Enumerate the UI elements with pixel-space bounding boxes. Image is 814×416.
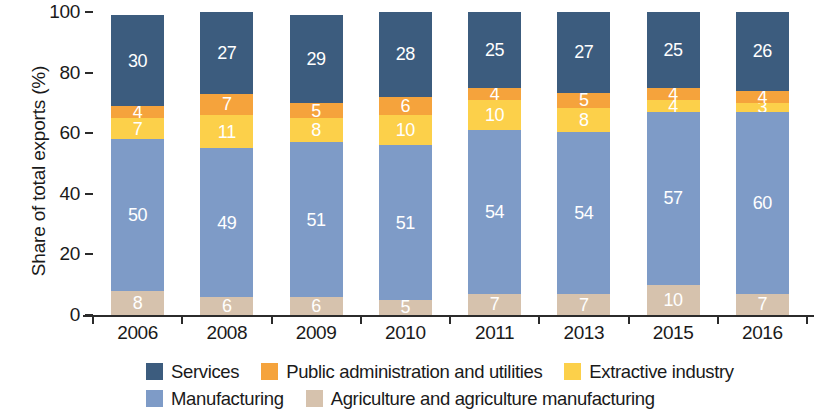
bar-segment-value: 5 bbox=[579, 93, 589, 108]
bar-segment-value: 11 bbox=[218, 123, 236, 141]
legend-label: Extractive industry bbox=[589, 361, 734, 383]
bar-segment: 6 bbox=[200, 297, 253, 315]
y-axis-tick-label: 60 bbox=[59, 122, 80, 144]
y-axis-tick-mark bbox=[85, 72, 93, 74]
bar-segment-value: 30 bbox=[128, 52, 147, 70]
legend-swatch-icon bbox=[564, 363, 581, 380]
bar-segment-value: 7 bbox=[758, 295, 768, 313]
legend-label: Agriculture and agriculture manufacturin… bbox=[331, 388, 655, 410]
bar-segment-value: 10 bbox=[485, 106, 504, 124]
bar-segment: 7 bbox=[468, 294, 521, 315]
legend-item[interactable]: Manufacturing bbox=[146, 388, 284, 410]
x-axis-label-2011: 2011 bbox=[450, 322, 539, 344]
legend-item[interactable]: Extractive industry bbox=[564, 361, 734, 383]
bar-segment: 27 bbox=[200, 12, 253, 94]
bar-segment: 54 bbox=[468, 130, 521, 294]
bar-2009: 6518529 bbox=[290, 12, 343, 315]
bar-segment: 26 bbox=[736, 12, 789, 91]
bar-segment: 5 bbox=[557, 93, 610, 108]
y-axis-tick-label: 80 bbox=[59, 62, 80, 84]
bar-2010: 55110628 bbox=[379, 12, 432, 315]
bar-segment-value: 5 bbox=[311, 103, 321, 118]
bar-segment-value: 4 bbox=[490, 88, 500, 100]
bar-segment-value: 51 bbox=[396, 214, 415, 232]
legend-item[interactable]: Public administration and utilities bbox=[261, 361, 542, 383]
y-axis-tick-mark bbox=[85, 132, 93, 134]
bar-segment: 4 bbox=[468, 88, 521, 100]
bar-segment-value: 4 bbox=[758, 91, 768, 103]
legend-swatch-icon bbox=[146, 363, 163, 380]
chart-legend: ServicesPublic administration and utilit… bbox=[0, 358, 814, 412]
bar-segment-value: 26 bbox=[753, 42, 772, 60]
bar-2006: 8507430 bbox=[111, 12, 164, 315]
bar-segment-value: 28 bbox=[396, 45, 415, 63]
bar-segment-value: 29 bbox=[306, 50, 325, 68]
legend-item[interactable]: Agriculture and agriculture manufacturin… bbox=[306, 388, 655, 410]
bar-segment-value: 57 bbox=[663, 189, 682, 207]
bar-segment: 10 bbox=[379, 115, 432, 145]
bar-segment: 6 bbox=[290, 297, 343, 315]
bar-segment-value: 4 bbox=[668, 88, 678, 100]
bar-segment: 49 bbox=[200, 148, 253, 296]
y-axis-tick-mark bbox=[85, 11, 93, 13]
bar-segment-value: 5 bbox=[401, 300, 411, 315]
y-axis-tick-label: 20 bbox=[59, 243, 80, 265]
legend-item[interactable]: Services bbox=[146, 361, 239, 383]
bar-segment: 50 bbox=[111, 139, 164, 291]
bar-segment: 51 bbox=[290, 142, 343, 297]
bar-segment-value: 7 bbox=[579, 296, 589, 314]
bar-segment: 8 bbox=[111, 291, 164, 315]
y-axis-tick: 40 bbox=[59, 183, 93, 205]
legend-swatch-icon bbox=[261, 363, 278, 380]
bar-segment: 27 bbox=[557, 12, 610, 93]
bar-segment-value: 49 bbox=[217, 214, 236, 232]
y-axis-tick: 0 bbox=[70, 304, 93, 326]
legend-swatch-icon bbox=[146, 390, 163, 407]
legend-label: Services bbox=[171, 361, 239, 383]
y-axis-tick-label: 40 bbox=[59, 183, 80, 205]
bar-segment: 30 bbox=[111, 15, 164, 106]
bar-segment: 54 bbox=[557, 132, 610, 294]
bar-2016: 7603426 bbox=[736, 12, 789, 315]
stacked-bar-chart: Share of total exports (%) 0204060801008… bbox=[0, 0, 814, 416]
bar-segment: 11 bbox=[200, 115, 253, 148]
plot-area: 0204060801008507430649117276518529551106… bbox=[93, 12, 807, 315]
y-axis-tick-label: 100 bbox=[49, 1, 80, 23]
bar-segment: 7 bbox=[200, 94, 253, 115]
bar-segment-value: 27 bbox=[217, 44, 236, 62]
bar-segment: 8 bbox=[290, 118, 343, 142]
bar-segment: 5 bbox=[290, 103, 343, 118]
y-axis-title: Share of total exports (%) bbox=[28, 46, 50, 296]
bar-2013: 7548527 bbox=[557, 12, 610, 315]
bar-segment-value: 60 bbox=[753, 194, 772, 212]
bar-segment-value: 25 bbox=[485, 41, 504, 59]
bar-segment: 5 bbox=[379, 300, 432, 315]
x-axis-label-2015: 2015 bbox=[629, 322, 718, 344]
bar-segment: 4 bbox=[736, 91, 789, 103]
y-axis-tick: 100 bbox=[49, 1, 93, 23]
legend-label: Public administration and utilities bbox=[286, 361, 542, 383]
legend-row-1: ServicesPublic administration and utilit… bbox=[0, 358, 814, 385]
bar-segment: 29 bbox=[290, 15, 343, 103]
bar-segment: 3 bbox=[736, 103, 789, 112]
bar-segment-value: 54 bbox=[574, 204, 593, 222]
bar-segment: 28 bbox=[379, 12, 432, 97]
legend-label: Manufacturing bbox=[171, 388, 284, 410]
bar-segment-value: 6 bbox=[311, 297, 321, 315]
bar-segment-value: 25 bbox=[663, 41, 682, 59]
bar-segment-value: 7 bbox=[133, 120, 143, 138]
legend-row-2: ManufacturingAgriculture and agriculture… bbox=[0, 385, 814, 412]
bar-segment: 25 bbox=[647, 12, 700, 88]
y-axis-tick-mark bbox=[85, 193, 93, 195]
bar-2008: 64911727 bbox=[200, 12, 253, 315]
bar-segment-value: 50 bbox=[128, 206, 147, 224]
y-axis-tick: 60 bbox=[59, 122, 93, 144]
bar-segment-value: 51 bbox=[306, 211, 325, 229]
x-axis-label-2008: 2008 bbox=[182, 322, 271, 344]
bar-segment-value: 8 bbox=[579, 111, 589, 129]
bar-segment: 7 bbox=[111, 118, 164, 139]
bar-segment-value: 10 bbox=[396, 121, 415, 139]
bar-segment: 8 bbox=[557, 108, 610, 132]
bar-segment-value: 6 bbox=[222, 297, 232, 315]
bar-2011: 75410425 bbox=[468, 12, 521, 315]
